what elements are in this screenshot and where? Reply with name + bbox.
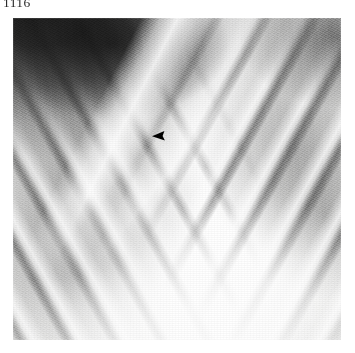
film-grain-layer-secondary [13,18,341,340]
figure-page: 1116 [0,0,355,353]
cardiac-silhouette-region [13,18,341,340]
supraclavicular-dark-region [13,18,341,340]
scapular-band [13,18,341,340]
chest-radiograph-figure [13,18,341,340]
clavicle-band [13,18,341,340]
rib-interspaces-right [13,18,341,340]
arrowhead-icon [152,131,165,141]
right-lung-field-region [13,18,341,340]
left-lung-field-region [13,18,341,340]
film-grain-layer [13,18,341,340]
rib-interspaces-left [13,18,341,340]
mediastinum-region [13,18,341,340]
chest-radiograph-image [13,18,341,340]
apex-shadow-left [13,18,341,340]
lower-zone-haze-region [13,18,341,340]
plate-edge [13,18,341,340]
apex-shadow-right [13,18,341,340]
film-base-layer [13,18,341,340]
posterior-ribs-right [13,18,341,340]
posterior-ribs-left [13,18,341,340]
page-number: 1116 [3,0,31,10]
